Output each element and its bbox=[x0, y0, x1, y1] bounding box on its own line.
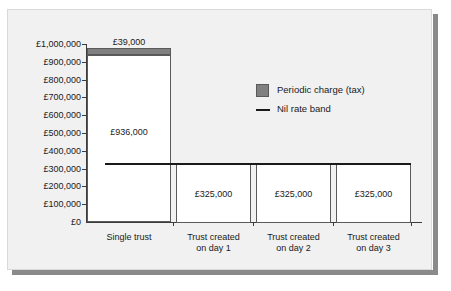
x-category-label-trust-day-2: Trust created on day 2 bbox=[254, 232, 333, 254]
legend-label-periodic-charge: Periodic charge (tax) bbox=[277, 84, 365, 96]
bar-label-value-trust-day-3: £325,000 bbox=[336, 189, 411, 199]
legend-line-icon bbox=[256, 109, 270, 111]
x-tick-mark-1 bbox=[173, 222, 174, 226]
chart-panel: £1,000,000 £900,000 £800,000 £700,000 £6… bbox=[7, 9, 432, 270]
bar-label-value-trust-day-2: £325,000 bbox=[256, 189, 331, 199]
y-tick-label-400000: £400,000 bbox=[1, 147, 81, 156]
y-tick-mark-1000000 bbox=[82, 44, 86, 45]
x-category-label-line-2: on day 3 bbox=[334, 243, 413, 254]
nil-rate-band-line bbox=[105, 163, 411, 165]
y-tick-mark-200000 bbox=[82, 186, 86, 187]
y-tick-label-1000000: £1,000,000 bbox=[1, 40, 81, 49]
y-tick-mark-900000 bbox=[82, 62, 86, 63]
y-tick-label-500000: £500,000 bbox=[1, 129, 81, 138]
x-category-label-trust-day-1: Trust created on day 1 bbox=[174, 232, 253, 254]
x-tick-mark-4 bbox=[411, 222, 412, 226]
panel-shadow-bottom bbox=[12, 270, 438, 275]
y-tick-mark-300000 bbox=[82, 169, 86, 170]
plot-area: £1,000,000 £900,000 £800,000 £700,000 £6… bbox=[86, 44, 421, 222]
x-tick-mark-2 bbox=[253, 222, 254, 226]
x-category-label-trust-day-3: Trust created on day 3 bbox=[334, 232, 413, 254]
x-category-label-line-1: Trust created bbox=[254, 232, 333, 243]
y-tick-mark-400000 bbox=[82, 151, 86, 152]
y-tick-label-0: £0 bbox=[1, 218, 81, 227]
y-tick-mark-600000 bbox=[82, 115, 86, 116]
y-tick-label-600000: £600,000 bbox=[1, 111, 81, 120]
y-tick-label-900000: £900,000 bbox=[1, 58, 81, 67]
panel-shadow-right bbox=[433, 14, 438, 275]
x-category-label-line-2: on day 2 bbox=[254, 243, 333, 254]
bar-label-tax-single-trust: £39,000 bbox=[87, 37, 171, 47]
legend-label-nil-rate-band: Nil rate band bbox=[277, 103, 331, 115]
y-tick-mark-700000 bbox=[82, 97, 86, 98]
x-category-label-line-1: Trust created bbox=[334, 232, 413, 243]
x-category-label-line-1: Trust created bbox=[174, 232, 253, 243]
x-tick-mark-3 bbox=[333, 222, 334, 226]
y-tick-label-800000: £800,000 bbox=[1, 76, 81, 85]
y-tick-label-100000: £100,000 bbox=[1, 200, 81, 209]
x-category-label-single-trust: Single trust bbox=[87, 232, 171, 243]
y-tick-mark-100000 bbox=[82, 204, 86, 205]
y-tick-label-700000: £700,000 bbox=[1, 93, 81, 102]
y-tick-mark-500000 bbox=[82, 133, 86, 134]
bar-label-value-single-trust: £936,000 bbox=[87, 127, 171, 137]
y-tick-label-200000: £200,000 bbox=[1, 182, 81, 191]
x-category-label-line-1: Single trust bbox=[87, 232, 171, 243]
bar-value-single-trust bbox=[87, 55, 171, 222]
chart-figure: £1,000,000 £900,000 £800,000 £700,000 £6… bbox=[0, 0, 451, 291]
y-tick-label-300000: £300,000 bbox=[1, 165, 81, 174]
bar-tax-single-trust bbox=[87, 48, 171, 55]
bar-label-value-trust-day-1: £325,000 bbox=[176, 189, 251, 199]
legend-swatch-icon bbox=[256, 84, 269, 97]
x-category-label-line-2: on day 1 bbox=[174, 243, 253, 254]
y-tick-mark-800000 bbox=[82, 80, 86, 81]
